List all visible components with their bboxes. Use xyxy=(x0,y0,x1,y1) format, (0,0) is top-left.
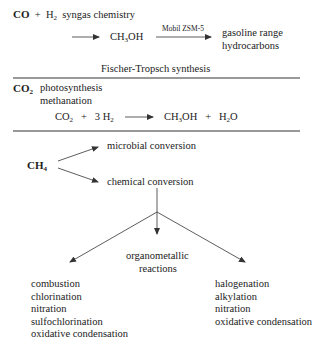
list-item: nitration xyxy=(31,303,67,315)
list-item: nitration xyxy=(215,303,251,315)
ch4-reactant: CH4 xyxy=(27,159,47,172)
gasoline-line1: gasoline range xyxy=(222,27,283,39)
methanation-label: methanation xyxy=(40,95,92,107)
co2-equation-rhs: CH3OH + H2O xyxy=(164,111,238,123)
organometallic-label-2: reactions xyxy=(139,263,177,275)
catalyst-label: Mobil ZSM-5 xyxy=(162,23,204,35)
syngas-label: syngas chemistry xyxy=(62,9,135,20)
chemical-conversion-label: chemical conversion xyxy=(107,176,194,188)
co2-equation-lhs: CO2 + 3 H2 xyxy=(55,111,114,123)
gasoline-line2: hydrocarbons xyxy=(222,40,279,52)
arrow-to-chemical xyxy=(58,168,98,182)
plus-sign: + xyxy=(35,9,41,20)
list-item: halogenation xyxy=(215,278,269,290)
microbial-conversion-label: microbial conversion xyxy=(107,140,196,152)
list-item: chlorination xyxy=(31,291,82,303)
co-header: CO + H2 syngas chemistry xyxy=(13,8,135,21)
photosynthesis-label: photosynthesis xyxy=(40,82,102,94)
fischer-tropsch-label: Fischer-Tropsch synthesis xyxy=(101,63,210,75)
methanol-product: CH3OH xyxy=(110,31,143,43)
list-item: sulfochlorination xyxy=(31,316,103,328)
h2-reactant: H2 xyxy=(46,9,57,20)
list-item: oxidative condensation xyxy=(215,316,312,328)
organometallic-label-1: organometallic xyxy=(126,250,189,262)
arrow-to-microbial xyxy=(58,147,98,161)
list-item: oxidative condensation xyxy=(31,328,128,340)
list-item: combustion xyxy=(31,278,80,290)
co2-reactant: CO2 xyxy=(13,82,33,95)
list-item: alkylation xyxy=(215,291,257,303)
co-reactant: CO xyxy=(13,8,30,20)
